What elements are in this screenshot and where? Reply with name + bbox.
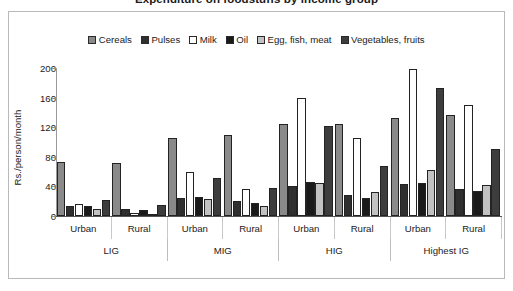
x-label-group: LIG [56,239,168,261]
bar-cereals[interactable] [335,124,343,216]
bar-cereals[interactable] [446,115,454,216]
legend-item-egg-fish-meat[interactable]: Egg, fish, meat [257,34,332,45]
bar-cereals[interactable] [57,162,65,216]
bar-pulses[interactable] [288,186,296,216]
bar-pulses[interactable] [344,195,352,216]
legend-item-label: Cereals [99,34,132,45]
bar-vegetables-fruits[interactable] [436,88,444,216]
x-label-group: Highest IG [391,239,503,261]
legend-item-vegetables-fruits[interactable]: Vegetables, fruits [341,34,425,45]
bar-group [223,68,279,216]
legend-item-label: Vegetables, fruits [351,34,425,45]
bar-egg-fish-meat[interactable] [315,183,323,216]
y-axis-ticks: 20016012080400 [0,0,56,291]
bar-milk[interactable] [409,69,417,216]
x-label-group: MIG [168,239,280,261]
x-label-group: HIG [279,239,391,261]
legend-item-oil[interactable]: Oil [226,34,248,45]
bar-group-bars [223,68,279,216]
legend-swatch-icon [88,36,96,44]
legend-item-label: Pulses [151,34,180,45]
y-tick-label: 0 [10,211,56,222]
bar-oil[interactable] [84,206,92,216]
legend-item-label: Oil [236,34,248,45]
legend-swatch-icon [341,36,349,44]
x-axis-category-labels: UrbanRuralUrbanRuralUrbanRuralUrbanRural… [56,217,502,261]
x-label-subgroup: Rural [223,217,279,239]
bar-cereals[interactable] [224,135,232,216]
legend-item-pulses[interactable]: Pulses [141,34,180,45]
bar-milk[interactable] [130,213,138,216]
bar-group [445,68,501,216]
bar-group [390,68,446,216]
bar-group-bars [279,68,335,216]
bar-cereals[interactable] [391,118,399,216]
bar-pulses[interactable] [121,209,129,216]
bar-oil[interactable] [306,182,314,216]
bar-egg-fish-meat[interactable] [482,185,490,216]
x-label-subgroup: Rural [446,217,502,239]
bars-plot-area [56,68,501,216]
y-tick-label: 120 [10,122,56,133]
bar-milk[interactable] [297,98,305,216]
bar-vegetables-fruits[interactable] [269,188,277,216]
legend-swatch-icon [189,36,197,44]
bar-oil[interactable] [473,191,481,216]
legend-item-milk[interactable]: Milk [189,34,217,45]
bar-vegetables-fruits[interactable] [380,166,388,216]
bar-milk[interactable] [242,189,250,216]
bar-milk[interactable] [353,138,361,216]
y-tick-label: 80 [10,151,56,162]
bar-group-bars [112,68,168,216]
y-tick-label: 200 [10,63,56,74]
bar-group [334,68,390,216]
x-label-subgroup: Urban [279,217,335,239]
bar-pulses[interactable] [233,201,241,216]
bar-egg-fish-meat[interactable] [427,170,435,216]
bar-group [56,68,112,216]
bar-oil[interactable] [195,197,203,216]
bar-vegetables-fruits[interactable] [324,126,332,216]
bar-milk[interactable] [464,105,472,216]
bar-pulses[interactable] [177,198,185,217]
bar-oil[interactable] [362,198,370,217]
x-label-subgroup: Rural [335,217,391,239]
y-tick-label: 40 [10,181,56,192]
chart-legend: CerealsPulsesMilkOilEgg, fish, meatVeget… [0,34,513,45]
x-axis-tier-subgroup: UrbanRuralUrbanRuralUrbanRuralUrbanRural [56,217,502,239]
bar-group-bars [167,68,223,216]
bar-vegetables-fruits[interactable] [157,205,165,216]
bar-oil[interactable] [418,183,426,216]
bar-egg-fish-meat[interactable] [93,209,101,216]
y-tick-label: 160 [10,92,56,103]
bar-group-bars [334,68,390,216]
bar-egg-fish-meat[interactable] [371,192,379,216]
bar-group [279,68,335,216]
bar-cereals[interactable] [279,124,287,216]
bar-cereals[interactable] [168,138,176,216]
x-label-subgroup: Urban [391,217,447,239]
bar-group-bars [390,68,446,216]
legend-item-label: Egg, fish, meat [268,34,332,45]
bar-vegetables-fruits[interactable] [102,200,110,216]
bar-pulses[interactable] [66,206,74,216]
bar-pulses[interactable] [455,189,463,216]
bar-group [167,68,223,216]
legend-item-cereals[interactable]: Cereals [88,34,132,45]
bar-egg-fish-meat[interactable] [260,206,268,216]
bar-egg-fish-meat[interactable] [204,199,212,216]
x-label-subgroup: Urban [56,217,112,239]
bar-pulses[interactable] [400,184,408,216]
bar-vegetables-fruits[interactable] [213,178,221,216]
bar-vegetables-fruits[interactable] [491,149,499,216]
x-label-subgroup: Rural [112,217,168,239]
bar-milk[interactable] [75,204,83,216]
bar-milk[interactable] [186,172,194,216]
legend-swatch-icon [257,36,265,44]
bar-cereals[interactable] [112,163,120,216]
bar-oil[interactable] [251,203,259,216]
x-axis-tier-group: LIGMIGHIGHighest IG [56,239,502,261]
chart-title: Expenditure on foodstuffs by income grou… [0,0,513,5]
bar-egg-fish-meat[interactable] [148,214,156,216]
bar-oil[interactable] [139,210,147,216]
